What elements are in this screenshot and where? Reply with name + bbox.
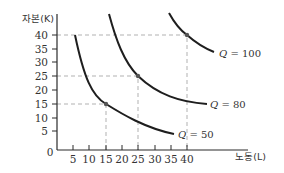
y-tick-label: 20 <box>35 84 48 96</box>
isoquant-curves <box>75 13 214 134</box>
y-ticks: 40 35 30 25 20 15 10 5 <box>35 29 57 137</box>
curve-q80 <box>109 14 207 104</box>
isoquant-chart: 40 35 30 25 20 15 10 5 5 10 15 20 25 30 … <box>0 0 284 173</box>
y-tick-label: 25 <box>35 70 48 82</box>
y-tick-label: 30 <box>35 56 48 68</box>
x-tick-label: 35 <box>164 153 177 165</box>
x-tick-label: 40 <box>180 153 193 165</box>
y-tick-label: 15 <box>35 98 48 110</box>
y-tick-label: 40 <box>35 29 48 41</box>
x-tick-label: 10 <box>82 153 95 165</box>
y-tick-label: 35 <box>35 43 48 55</box>
x-tick-label: 25 <box>131 153 144 165</box>
x-tick-label: 15 <box>99 153 112 165</box>
curve-q100 <box>169 13 214 52</box>
x-tick-label: 20 <box>115 153 128 165</box>
label-q50: Q = 50 <box>178 129 214 140</box>
x-tick-label: 5 <box>70 153 77 165</box>
y-tick-label: 5 <box>41 125 48 137</box>
x-axis-title: 노동(L) <box>235 151 266 162</box>
axes <box>57 14 248 150</box>
origin-label: 0 <box>47 146 54 158</box>
curve-q50 <box>75 35 174 134</box>
y-tick-label: 10 <box>35 112 48 124</box>
x-ticks: 5 10 15 20 25 30 35 40 <box>70 145 194 165</box>
point-40-40 <box>185 33 189 37</box>
point-25-25 <box>136 74 140 78</box>
y-axis-title: 자본(K) <box>22 13 54 24</box>
highlighted-points <box>104 33 189 106</box>
guide-q80 <box>57 76 138 150</box>
point-15-15 <box>104 102 108 106</box>
label-q80: Q = 80 <box>210 99 246 110</box>
x-tick-label: 30 <box>148 153 161 165</box>
guide-q50 <box>57 104 106 150</box>
label-q100: Q = 100 <box>219 48 261 59</box>
